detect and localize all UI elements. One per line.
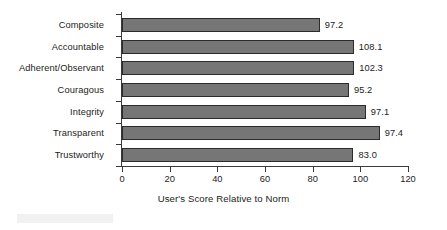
- bar-row: 97.4: [122, 126, 408, 140]
- bar-value-label: 97.2: [325, 20, 344, 30]
- x-axis-tick-label: 100: [353, 174, 369, 184]
- bar-value-label: 108.1: [359, 42, 383, 52]
- x-axis-tick: [360, 167, 361, 172]
- y-axis-tick: [116, 101, 121, 102]
- y-axis-tick: [116, 79, 121, 80]
- y-axis-tick: [116, 36, 121, 37]
- plot-area: 97.2108.1102.395.297.197.483.0: [122, 14, 408, 166]
- bar-row: 102.3: [122, 61, 408, 75]
- category-label: Composite: [0, 20, 114, 30]
- category-label: Trustworthy: [0, 150, 114, 160]
- x-axis-tick: [313, 167, 314, 172]
- bar-value-label: 102.3: [359, 63, 383, 73]
- bar-value-label: 83.0: [358, 150, 377, 160]
- bar-value-label: 95.2: [354, 85, 373, 95]
- bar: [122, 148, 353, 162]
- x-axis-tick: [122, 167, 123, 172]
- bar-value-label: 97.4: [385, 128, 404, 138]
- x-axis-tick: [265, 167, 266, 172]
- y-axis-tick: [116, 166, 121, 167]
- x-axis-tick-label: 120: [400, 174, 416, 184]
- bar: [122, 40, 354, 54]
- x-axis-title: User's Score Relative to Norm: [0, 193, 447, 204]
- bar-row: 97.1: [122, 105, 408, 119]
- y-axis-tick: [116, 57, 121, 58]
- x-axis-tick: [408, 167, 409, 172]
- x-axis-tick-label: 0: [119, 174, 124, 184]
- bar: [122, 126, 380, 140]
- x-axis-tick-label: 60: [260, 174, 270, 184]
- x-axis-tick-label: 20: [164, 174, 174, 184]
- category-label: Couragous: [0, 85, 114, 95]
- bar-row: 108.1: [122, 40, 408, 54]
- bar-row: 95.2: [122, 83, 408, 97]
- y-axis-tick: [116, 14, 121, 15]
- category-label: Transparent: [0, 128, 114, 138]
- horizontal-bar-chart: CompositeAccountableAdherent/ObservantCo…: [0, 0, 447, 230]
- y-axis-tick: [116, 123, 121, 124]
- bar-value-label: 97.1: [371, 107, 390, 117]
- x-axis-tick-label: 80: [307, 174, 317, 184]
- bar-row: 97.2: [122, 18, 408, 32]
- y-axis-tick: [116, 144, 121, 145]
- scan-artifact: [17, 214, 113, 223]
- x-axis-tick: [217, 167, 218, 172]
- bar: [122, 105, 366, 119]
- bar: [122, 83, 349, 97]
- x-axis-tick: [170, 167, 171, 172]
- bar-row: 83.0: [122, 148, 408, 162]
- category-label: Adherent/Observant: [0, 63, 114, 73]
- bar: [122, 18, 320, 32]
- bar: [122, 61, 354, 75]
- category-label: Integrity: [0, 107, 114, 117]
- x-axis-tick-label: 40: [212, 174, 222, 184]
- category-label: Accountable: [0, 42, 114, 52]
